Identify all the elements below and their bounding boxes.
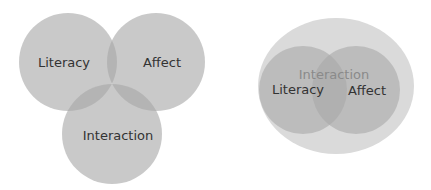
overlapping-venn: Literacy Affect Interaction [19, 13, 205, 184]
label-interaction-outer: Interaction [299, 67, 370, 82]
label-affect: Affect [143, 55, 181, 70]
nested-venn: Interaction Literacy Affect [258, 18, 414, 154]
venn-diagrams: Literacy Affect Interaction Interaction … [0, 0, 431, 190]
label-affect-inner: Affect [348, 83, 386, 98]
label-literacy-inner: Literacy [272, 82, 324, 97]
label-literacy: Literacy [38, 55, 90, 70]
label-interaction: Interaction [83, 128, 154, 143]
